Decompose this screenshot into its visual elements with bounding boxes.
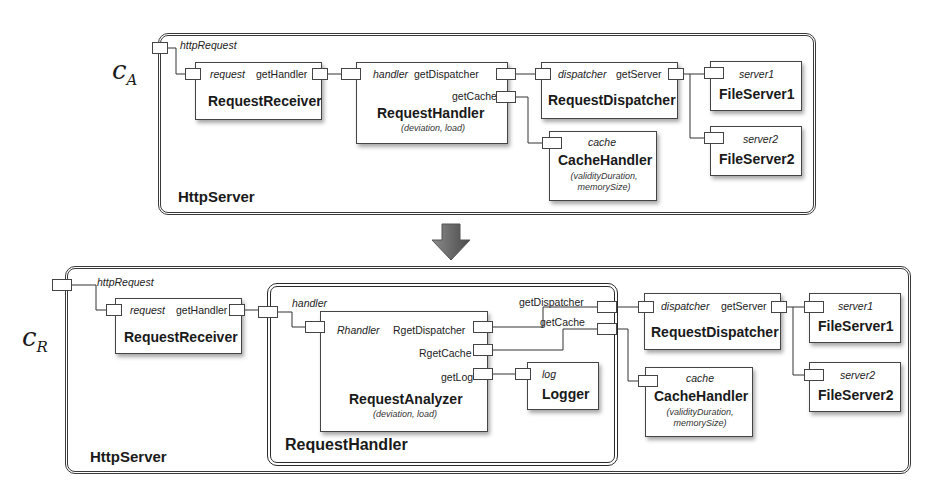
component-cachehandler-bottom[interactable]: cache CacheHandler (validityDuration, me… <box>645 367 753 437</box>
rgetdispatcher-port[interactable] <box>473 321 493 333</box>
server2-port-top[interactable] <box>704 132 724 144</box>
server1-port-top[interactable] <box>704 67 724 79</box>
port-label-rhandler: Rhandler <box>337 324 380 336</box>
gethandler-port-top[interactable] <box>312 68 328 80</box>
httprequest-port-top[interactable] <box>152 42 168 54</box>
composite-port-label-getcache: getCache <box>540 316 585 328</box>
getcache-port-top[interactable] <box>496 91 516 103</box>
component-title: Logger <box>542 386 589 402</box>
component-title: RequestDispatcher <box>651 324 779 340</box>
component-title: RequestDispatcher <box>548 92 676 108</box>
composite-port-label-getdispatcher: getDispatcher <box>519 296 584 308</box>
component-title: RequestAnalyzer <box>349 391 463 407</box>
composite-title: RequestHandler <box>285 436 408 454</box>
request-port-bottom[interactable] <box>106 304 122 316</box>
config-label-a: cA <box>112 55 137 89</box>
composite-port-label-handler: handler <box>292 297 327 309</box>
port-label-getlog: getLog <box>441 371 473 383</box>
server1-port-bottom[interactable] <box>804 301 824 313</box>
gethandler-port-bottom[interactable] <box>229 304 245 316</box>
httpserver-label-bottom: HttpServer <box>90 448 167 465</box>
port-label-getserver: getServer <box>721 300 767 312</box>
handler-port-composite[interactable] <box>258 306 278 318</box>
port-label-cache: cache <box>686 372 714 384</box>
port-label-server1: server1 <box>838 300 873 312</box>
port-label-server2: server2 <box>743 133 778 145</box>
httpserver-label-top: HttpServer <box>178 188 255 205</box>
getserver-port-bottom[interactable] <box>771 301 787 313</box>
port-label-rgetcache: RgetCache <box>419 347 472 359</box>
component-cachehandler-top[interactable]: cache CacheHandler (validityDuration, me… <box>549 131 657 201</box>
port-label-handler: handler <box>373 68 408 80</box>
component-title: FileServer2 <box>719 151 795 167</box>
component-title: FileServer1 <box>818 318 894 334</box>
handler-port-top[interactable] <box>341 68 361 80</box>
getdispatcher-port-composite[interactable] <box>597 301 617 313</box>
component-requestdispatcher-top[interactable]: dispatcher getServer RequestDispatcher <box>541 62 678 119</box>
port-label-cache: cache <box>588 136 616 148</box>
rgetcache-port[interactable] <box>473 344 493 356</box>
component-title: RequestHandler <box>377 105 484 121</box>
request-port-top[interactable] <box>185 68 201 80</box>
port-label-dispatcher: dispatcher <box>558 68 606 80</box>
component-requestreceiver-top[interactable]: request getHandler RequestReceiver <box>195 62 322 120</box>
httprequest-label-bottom: httpRequest <box>97 276 154 288</box>
component-title: FileServer1 <box>719 86 795 102</box>
server2-port-bottom[interactable] <box>804 369 824 381</box>
port-label-request: request <box>130 304 165 316</box>
getserver-port-top[interactable] <box>668 68 684 80</box>
getdispatcher-port-top[interactable] <box>496 68 516 80</box>
component-params: (deviation, load) <box>321 409 489 420</box>
component-params-1: (validityDuration, <box>646 407 754 418</box>
port-label-request: request <box>210 68 245 80</box>
component-params-2: memorySize) <box>646 418 754 429</box>
component-title: RequestReceiver <box>208 93 322 109</box>
component-params-1: (validityDuration, <box>550 171 658 182</box>
port-label-gethandler: getHandler <box>176 304 227 316</box>
component-title: FileServer2 <box>818 387 894 403</box>
cache-port-bottom[interactable] <box>638 375 658 387</box>
port-label-gethandler: getHandler <box>256 68 307 80</box>
config-label-r: cR <box>22 322 48 356</box>
component-params: (deviation, load) <box>357 123 509 134</box>
component-requestreceiver-bottom[interactable]: request getHandler RequestReceiver <box>115 298 242 354</box>
getlog-port[interactable] <box>473 368 493 380</box>
getcache-port-composite[interactable] <box>597 323 617 335</box>
httprequest-label-top: httpRequest <box>180 39 237 51</box>
port-label-rgetdispatcher: RgetDispatcher <box>393 324 465 336</box>
rhandler-port[interactable] <box>305 321 325 333</box>
port-label-server1: server1 <box>739 68 774 80</box>
httprequest-port-bottom[interactable] <box>52 279 72 291</box>
cache-port-top[interactable] <box>542 137 562 149</box>
port-label-getserver: getServer <box>616 68 662 80</box>
component-title: RequestReceiver <box>124 329 238 345</box>
component-title: CacheHandler <box>654 388 748 404</box>
component-requesthandler-top[interactable]: handler getDispatcher getCache RequestHa… <box>356 62 508 144</box>
port-label-dispatcher: dispatcher <box>661 300 709 312</box>
component-requestanalyzer[interactable]: Rhandler RgetDispatcher RgetCache getLog… <box>320 311 488 432</box>
dispatcher-port-bottom[interactable] <box>638 301 654 313</box>
component-requestdispatcher-bottom[interactable]: dispatcher getServer RequestDispatcher <box>644 293 781 350</box>
log-port[interactable] <box>515 368 531 380</box>
dispatcher-port-top[interactable] <box>535 68 551 80</box>
port-label-getcache: getCache <box>452 90 497 102</box>
component-params-2: memorySize) <box>550 182 658 193</box>
arrow-down-icon <box>428 222 474 262</box>
component-title: CacheHandler <box>558 152 652 168</box>
port-label-log: log <box>542 368 556 380</box>
component-logger[interactable]: log Logger <box>527 362 599 410</box>
port-label-getdispatcher: getDispatcher <box>414 68 479 80</box>
port-label-server2: server2 <box>840 369 875 381</box>
